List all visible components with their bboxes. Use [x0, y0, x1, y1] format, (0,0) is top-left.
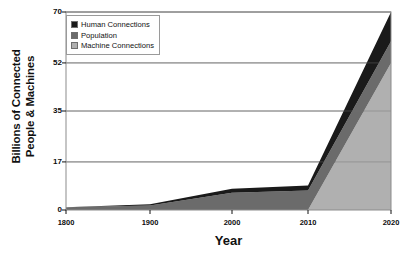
- legend-item: Machine Connections: [71, 41, 154, 51]
- x-tick-label: 1800: [58, 218, 75, 227]
- legend-label: Human Connections: [81, 20, 150, 29]
- legend-item: Population: [71, 30, 154, 40]
- legend-swatch-icon: [71, 42, 78, 49]
- legend-swatch-icon: [71, 32, 78, 39]
- chart-legend: Human ConnectionsPopulationMachine Conne…: [66, 15, 160, 55]
- legend-label: Population: [81, 31, 117, 40]
- x-tick-label: 2010: [300, 218, 317, 227]
- x-axis-title: Year: [66, 233, 391, 248]
- legend-label: Machine Connections: [81, 41, 154, 50]
- legend-item: Human Connections: [71, 20, 154, 30]
- x-axis-tick-labels: 18001900200020102020: [0, 0, 403, 261]
- chart-figure: Billions of Connected People & Machines …: [0, 0, 403, 261]
- x-tick-label: 2000: [224, 218, 241, 227]
- x-tick-label: 1900: [142, 218, 159, 227]
- x-tick-label: 2020: [383, 218, 400, 227]
- legend-swatch-icon: [71, 21, 78, 28]
